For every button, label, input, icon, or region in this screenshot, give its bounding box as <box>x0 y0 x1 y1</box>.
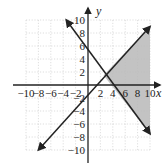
y-tick-label: 4 <box>80 53 86 65</box>
y-tick-label: 6 <box>80 40 86 52</box>
x-tick-label: 4 <box>110 87 116 99</box>
y-tick-label: −10 <box>68 144 86 156</box>
x-tick-label: −4 <box>57 87 69 99</box>
y-tick-label: 8 <box>80 27 86 39</box>
inequality-graph: −10−8−6−4−2246810 108642−2−4−6−8−10 y x <box>0 0 162 166</box>
x-tick-label: −8 <box>33 87 45 99</box>
x-tick-label: −6 <box>45 87 57 99</box>
x-tick-label: 8 <box>135 87 141 99</box>
x-tick-label: 2 <box>98 87 104 99</box>
y-tick-label: −6 <box>73 118 85 130</box>
x-tick-label: 10 <box>145 87 157 99</box>
y-tick-label: −2 <box>73 92 85 104</box>
y-tick-label: −4 <box>73 105 85 117</box>
x-tick-label: 6 <box>122 87 128 99</box>
y-tick-label: −8 <box>73 131 85 143</box>
x-axis-label: x <box>155 86 162 100</box>
y-tick-label: 2 <box>80 66 86 78</box>
y-axis-label: y <box>95 4 102 18</box>
y-tick-label: 10 <box>74 14 86 26</box>
